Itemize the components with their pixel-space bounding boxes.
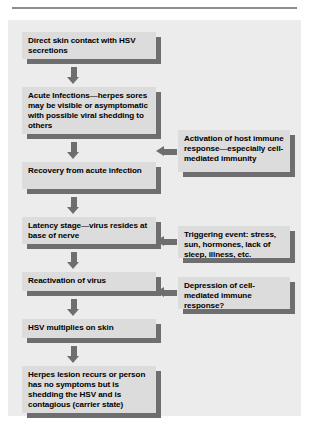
annotation-note-3: Depression of cell-mediated immune respo… — [178, 277, 290, 309]
annotation-note-2-label: Triggering event: stress, sun, hormones,… — [184, 230, 276, 259]
flow-step-2-label: Acute Infections—herpes sores may be vis… — [28, 91, 148, 130]
annotation-note-3-label: Depression of cell-mediated immune respo… — [184, 281, 255, 310]
flow-step-3: Recovery from acute infection — [22, 162, 156, 189]
annotation-note-1-label: Activation of host immune response—espec… — [184, 134, 284, 163]
connector-arrow-6-7 — [67, 346, 80, 363]
flowchart-panel: Direct skin contact with HSV secretions … — [8, 20, 301, 416]
flow-step-4-label: Latency stage—virus resides at base of n… — [28, 221, 147, 240]
annotation-note-1: Activation of host immune response—espec… — [178, 130, 290, 172]
annotation-arrow-3 — [156, 287, 177, 298]
top-divider-rule — [12, 7, 297, 9]
flow-step-6: HSV multiplies on skin — [22, 319, 156, 338]
connector-arrow-5-6 — [67, 299, 80, 316]
flow-step-2: Acute Infections—herpes sores may be vis… — [22, 87, 156, 134]
flow-step-5-label: Reactivation of virus — [28, 276, 106, 285]
flow-step-4: Latency stage—virus resides at base of n… — [22, 217, 156, 244]
connector-arrow-3-4 — [67, 197, 80, 214]
connector-arrow-1-2 — [67, 67, 80, 84]
flow-step-7: Herpes lesion recurs or person has no sy… — [22, 366, 156, 413]
flow-step-1-label: Direct skin contact with HSV secretions — [28, 36, 136, 55]
annotation-note-2: Triggering event: stress, sun, hormones,… — [178, 226, 290, 258]
flow-step-6-label: HSV multiplies on skin — [28, 323, 114, 332]
flow-step-1: Direct skin contact with HSV secretions — [22, 32, 156, 59]
annotation-arrow-2 — [156, 236, 177, 247]
flow-step-5: Reactivation of virus — [22, 272, 156, 291]
figure-root: Direct skin contact with HSV secretions … — [0, 0, 309, 431]
annotation-arrow-1 — [156, 146, 177, 157]
connector-arrow-4-5 — [67, 252, 80, 269]
flow-step-3-label: Recovery from acute infection — [28, 166, 142, 175]
flow-step-7-label: Herpes lesion recurs or person has no sy… — [28, 370, 145, 409]
connector-arrow-2-3 — [67, 142, 80, 159]
